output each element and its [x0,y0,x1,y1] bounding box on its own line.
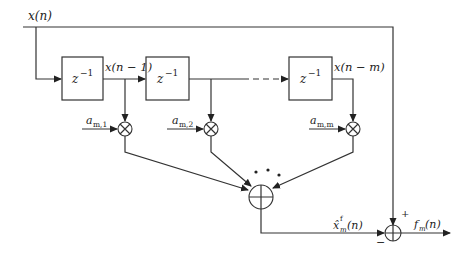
delay-1-base: z [71,72,79,86]
coef-label-m: a m,m [310,114,334,129]
summer [249,185,273,209]
svg-text:(n): (n) [425,218,441,231]
diagram-canvas: x(n) z −1 z −1 z −1 x(n − 1) x(n − m) [0,0,468,257]
sum-connections [125,136,353,190]
svg-text:m: m [340,226,347,234]
svg-text:a: a [86,114,93,127]
plus-sign: + [401,208,409,219]
delay-m-base: z [299,72,307,86]
svg-text:a: a [172,114,179,127]
delay-m-exp: −1 [308,68,321,78]
delay-box-m: z −1 [289,57,332,100]
output-label: f m (n) [413,218,441,233]
ellipsis-dots [254,168,280,176]
delay-m-output-label: x(n − m) [334,60,385,74]
input-label: x(n) [28,9,52,23]
multiplier-2 [204,122,218,136]
delay-1-exp: −1 [80,68,93,78]
multiplier-m [346,122,360,136]
svg-text:a: a [310,114,317,127]
svg-text:f: f [340,215,344,223]
svg-text:m,m: m,m [317,120,334,129]
minus-sign: − [376,236,385,249]
coef-label-1: a m,1 [86,114,107,129]
output-summer [385,225,401,241]
delay-2-base: z [156,72,164,86]
multiplier-1 [118,122,132,136]
prediction-label: x̂ f m (n) [333,215,363,234]
svg-text:(n): (n) [347,219,363,232]
svg-text:m,1: m,1 [93,120,107,129]
svg-text:x̂: x̂ [333,219,340,232]
coef-label-2: a m,2 [172,114,193,129]
delay-2-exp: −1 [165,68,178,78]
block-diagram: x(n) z −1 z −1 z −1 x(n − 1) x(n − m) [0,0,468,257]
prediction-line [261,209,384,233]
delay-box-2: z −1 [146,57,189,100]
delay-box-1: z −1 [62,57,103,100]
delay-1-output-label: x(n − 1) [105,60,152,74]
svg-text:m,2: m,2 [179,120,193,129]
